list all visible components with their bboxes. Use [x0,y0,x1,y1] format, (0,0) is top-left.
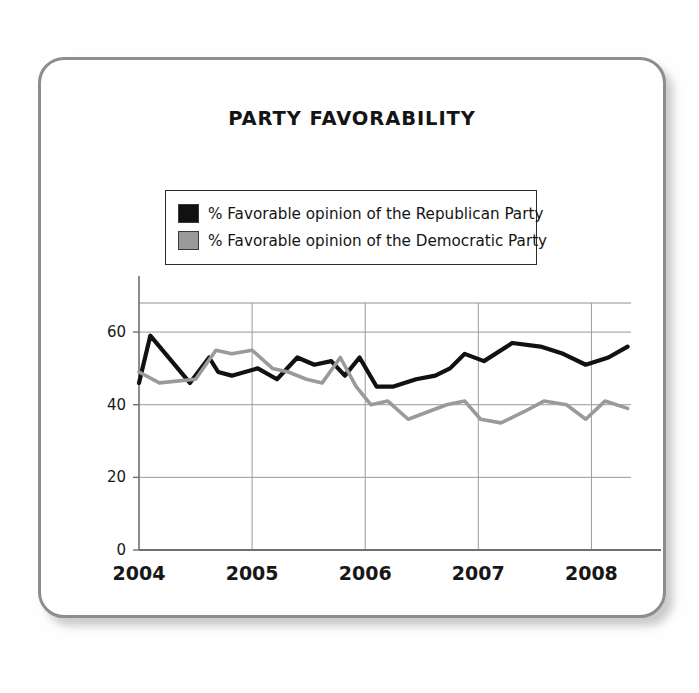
legend-label-republican: % Favorable opinion of the Republican Pa… [208,205,543,223]
legend-swatch-democratic-icon [178,231,199,250]
y-axis-tick-label: 40 [107,396,126,414]
legend-label-democratic: % Favorable opinion of the Democratic Pa… [208,232,547,250]
x-axis-tick-label: 2004 [113,562,166,584]
y-axis-tick-label: 20 [107,468,126,486]
party-favorability-line-chart: 020406020042005200620072008 [41,60,669,621]
chart-legend: % Favorable opinion of the Republican Pa… [165,190,537,265]
page-root: PARTY FAVORABILITY % Favorable opinion o… [0,0,699,693]
chart-plot-area: 020406020042005200620072008 [41,60,669,621]
chart-card: PARTY FAVORABILITY % Favorable opinion o… [38,57,666,618]
series-line-democratic [139,350,628,423]
y-axis-tick-label: 60 [107,323,126,341]
y-axis-tick-label: 0 [116,541,126,559]
x-axis-tick-label: 2006 [339,562,392,584]
x-axis-tick-label: 2008 [565,562,618,584]
legend-item-democratic: % Favorable opinion of the Democratic Pa… [178,227,524,254]
legend-item-republican: % Favorable opinion of the Republican Pa… [178,200,524,227]
x-axis-tick-label: 2005 [226,562,279,584]
legend-swatch-republican-icon [178,204,199,223]
series-line-republican [139,336,628,387]
x-axis-tick-label: 2007 [452,562,505,584]
page-title: PARTY FAVORABILITY [41,107,663,130]
